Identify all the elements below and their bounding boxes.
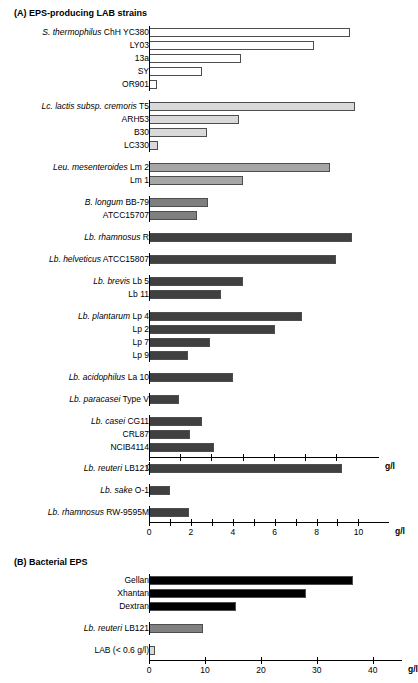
bar-rows: S. thermophilus ChH YC380LY0313aSYOR901L…	[0, 26, 413, 454]
bar[interactable]	[149, 80, 157, 89]
axis-zero-line	[149, 310, 150, 362]
bar[interactable]	[149, 211, 197, 220]
axis-tick	[170, 519, 171, 526]
bar-track	[149, 622, 413, 635]
axis-tick	[317, 519, 318, 526]
bar[interactable]	[149, 351, 188, 360]
strain-name: ATCC15707	[103, 210, 149, 220]
bar[interactable]	[149, 277, 243, 286]
bar-row-label: Lb. rhamnosus R	[84, 231, 149, 244]
strain-name: OR901	[122, 79, 149, 89]
axis-tick	[317, 657, 318, 664]
bar[interactable]	[149, 373, 233, 382]
bar-track	[149, 336, 413, 349]
bar-row-label: Lb. paracasei Type V	[69, 393, 149, 406]
species-name: Lb. plantarum	[78, 311, 130, 321]
strain-name: SY	[138, 66, 149, 76]
bar-rows: GellanXhantanDextranLb. reuteri LB121LAB…	[0, 574, 413, 657]
bar-row-label: B. longum BB-79	[85, 196, 149, 209]
bar-row-label: Lb. reuteri LB121	[84, 462, 149, 475]
bar[interactable]	[149, 464, 342, 473]
bar[interactable]	[149, 576, 353, 585]
axis-tick-label: 0	[134, 527, 164, 537]
bar[interactable]	[149, 41, 314, 50]
bar[interactable]	[149, 102, 355, 111]
species-name: Lb. casei	[91, 416, 125, 426]
bar[interactable]	[149, 290, 221, 299]
axis-tick	[337, 519, 338, 526]
group-gap	[0, 91, 413, 100]
strain-name: Lp 4	[132, 311, 149, 321]
species-name: Lb. acidophilus	[69, 372, 126, 382]
bar-track	[149, 39, 413, 52]
bar[interactable]	[149, 312, 302, 321]
bar-row: Lp 2	[0, 323, 413, 336]
strain-name: Lm 1	[130, 175, 149, 185]
axis-tick-label: 30	[302, 665, 332, 675]
bar[interactable]	[149, 198, 208, 207]
strain-name: Type V	[123, 394, 149, 404]
bar[interactable]	[149, 602, 236, 611]
bar[interactable]	[149, 67, 202, 76]
bar-track	[149, 196, 413, 209]
bar[interactable]	[149, 430, 190, 439]
axis-tick	[296, 519, 297, 526]
axis-tick	[274, 454, 275, 461]
bar-row: Leu. mesenteroides Lm 2	[0, 161, 413, 174]
bar[interactable]	[149, 417, 202, 426]
bar-row-label: B30	[134, 126, 149, 139]
bar-row: B. longum BB-79	[0, 196, 413, 209]
bar[interactable]	[149, 163, 330, 172]
bar[interactable]	[149, 395, 179, 404]
panel-a-title: (A) EPS-producing LAB strains	[14, 8, 147, 18]
bar-row: Lb. reuteri LB121	[0, 622, 413, 635]
bar-row: Lb. acidophilus La 10	[0, 371, 413, 384]
group-gap	[0, 475, 413, 484]
bar[interactable]	[149, 54, 241, 63]
bar[interactable]	[149, 443, 214, 452]
strain-name: T5	[139, 101, 149, 111]
bar[interactable]	[149, 325, 275, 334]
bar[interactable]	[149, 28, 350, 37]
axis-line	[149, 522, 389, 523]
bar[interactable]	[149, 141, 158, 150]
axis-tick-label: 8	[302, 527, 332, 537]
bar[interactable]	[149, 508, 189, 517]
bar-row-label: LC330	[124, 139, 149, 152]
bar-row: Lb. rhamnosus R	[0, 231, 413, 244]
bar[interactable]	[149, 233, 352, 242]
strain-name: Lp 2	[132, 324, 149, 334]
bar-row: LC330	[0, 139, 413, 152]
bar-row: OR901	[0, 78, 413, 91]
axis-tick-label: 20	[246, 665, 276, 675]
species-name: Lb. reuteri	[84, 623, 122, 633]
bar[interactable]	[149, 255, 336, 264]
group-gap	[0, 362, 413, 371]
bar[interactable]	[149, 338, 210, 347]
bar-row: Lb. helveticus ATCC15807	[0, 253, 413, 266]
axis-zero-line	[149, 462, 150, 475]
bar-track	[149, 441, 413, 454]
bar[interactable]	[149, 176, 243, 185]
strain-name: B30	[134, 127, 149, 137]
axis-zero-line	[149, 253, 150, 266]
bar[interactable]	[149, 128, 207, 137]
bar-row-label: CRL87	[123, 428, 149, 441]
bar-track	[149, 231, 413, 244]
strain-name: CRL87	[123, 429, 149, 439]
axis-tick	[180, 454, 181, 461]
strain-name: Lm 2	[130, 162, 149, 172]
bar[interactable]	[149, 624, 203, 633]
bar[interactable]	[149, 486, 170, 495]
bar[interactable]	[149, 115, 239, 124]
axis-zero-line	[149, 415, 150, 454]
axis-tick-label: 6	[260, 527, 290, 537]
bar[interactable]	[149, 589, 306, 598]
strain-name: Lp 9	[132, 350, 149, 360]
axis-zero-line	[149, 231, 150, 244]
species-name: Lb. reuteri	[84, 463, 122, 473]
group-gap	[0, 635, 413, 644]
bar-track	[149, 428, 413, 441]
bar-row: Lc. lactis subsp. cremoris T5	[0, 100, 413, 113]
group-gap	[0, 613, 413, 622]
